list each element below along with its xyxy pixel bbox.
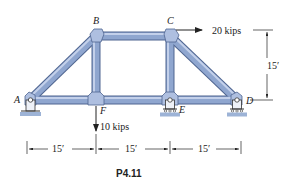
- figure-caption: P4.11: [116, 168, 142, 179]
- load-label-F: 10 kips: [100, 121, 129, 132]
- joint-label-D: D: [245, 95, 254, 106]
- joint-label-F: F: [99, 105, 107, 116]
- dimension-label-AF: 15′: [52, 143, 64, 154]
- joint-label-C: C: [167, 15, 174, 26]
- dimension-vertical-label: 15′: [267, 60, 279, 71]
- dimension-label-ED: 15′: [198, 143, 210, 154]
- gusset-C: [164, 29, 179, 42]
- gusset-F: [88, 92, 104, 105]
- joint-label-B: B: [93, 15, 99, 26]
- joint-label-E: E: [178, 104, 185, 115]
- truss-members: [29, 34, 238, 100]
- load-label-C: 20 kips: [212, 25, 241, 36]
- dimension-label-FE: 15′: [125, 143, 137, 154]
- joint-label-A: A: [13, 94, 21, 105]
- gusset-B: [90, 29, 104, 42]
- load-20-kips: 20 kips: [176, 25, 241, 36]
- truss-diagram: A B C D E F 20 kips 10 kips 15′ 15′ 15′ …: [0, 0, 293, 190]
